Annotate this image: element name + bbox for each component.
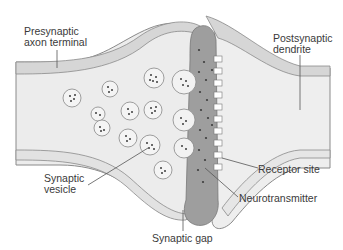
label-presynaptic-axon-terminal: Presynaptic axon terminal <box>24 26 87 48</box>
synapse-diagram: Presynaptic axon terminal Postsynaptic d… <box>0 0 343 250</box>
label-synaptic-vesicle: Synaptic vesicle <box>44 173 84 195</box>
fusing-vesicles <box>172 70 196 158</box>
label-receptor-site: Receptor site <box>258 164 320 175</box>
label-neurotransmitter: Neurotransmitter <box>239 193 317 204</box>
label-synaptic-gap: Synaptic gap <box>152 233 213 244</box>
label-postsynaptic-dendrite: Postsynaptic dendrite <box>273 33 333 55</box>
